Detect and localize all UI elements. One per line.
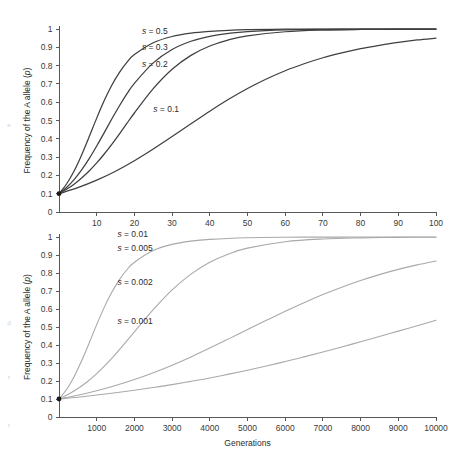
y-tick-label: 0	[48, 412, 53, 422]
y-tick-label: 0.2	[41, 170, 53, 180]
x-tick-label: 5000	[238, 423, 257, 433]
y-tick-label: 0.1	[41, 394, 53, 404]
x-tick-label: 60	[280, 218, 290, 228]
y-tick-label: 1	[48, 24, 53, 34]
plot-area-top: 00.10.20.30.40.50.60.70.80.9110203040506…	[0, 0, 462, 228]
y-tick-label: 0.3	[41, 358, 53, 368]
y-tick-label: 0.4	[41, 134, 53, 144]
y-tick-label: 0.8	[41, 61, 53, 71]
y-tick-label: 0.5	[41, 116, 53, 126]
axis-lines	[59, 234, 436, 417]
y-tick-label: 0	[48, 207, 53, 217]
x-tick-label: 70	[318, 218, 328, 228]
axis-lines	[59, 26, 436, 212]
y-tick-label: 0.6	[41, 97, 53, 107]
curve-s-0-002	[59, 261, 436, 399]
figure-allele-frequency-selection: n d r t 00.10.20.30.40.50.60.70.80.91102…	[0, 0, 462, 458]
plot-area-bottom: 00.10.20.30.40.50.60.70.80.9110002000300…	[0, 228, 462, 458]
y-tick-label: 0.7	[41, 286, 53, 296]
chart-panel-strong-selection: 00.10.20.30.40.50.60.70.80.9110203040506…	[0, 0, 462, 228]
curve-s-0-1	[59, 38, 436, 194]
x-tick-label: 2000	[125, 423, 144, 433]
x-tick-label: 100	[429, 218, 443, 228]
x-tick-label: 80	[356, 218, 366, 228]
series-label-s-0-005: s = 0.005	[117, 243, 152, 253]
y-axis-title: Frequency of the A allele (p)	[22, 67, 32, 173]
y-tick-label: 0.4	[41, 340, 53, 350]
x-tick-label: 9000	[389, 423, 408, 433]
x-tick-label: 10000	[424, 423, 448, 433]
series-label-s-0-3: s = 0.3	[142, 42, 168, 52]
initial-frequency-dot	[57, 191, 62, 196]
x-tick-label: 90	[394, 218, 404, 228]
x-tick-label: 20	[130, 218, 140, 228]
x-tick-label: 7000	[313, 423, 332, 433]
series-label-s-0-5: s = 0.5	[142, 26, 168, 36]
series-label-s-0-01: s = 0.01	[117, 229, 148, 239]
series-label-s-0-2: s = 0.2	[142, 59, 168, 69]
x-tick-label: 10	[92, 218, 102, 228]
x-tick-label: 1000	[87, 423, 106, 433]
y-tick-label: 0.1	[41, 189, 53, 199]
y-tick-label: 0.9	[41, 250, 53, 260]
series-label-s-0-002: s = 0.002	[117, 277, 152, 287]
x-tick-label: 50	[243, 218, 253, 228]
curve-s-0-001	[59, 320, 436, 399]
series-label-s-0-001: s = 0.001	[117, 316, 152, 326]
y-axis-title: Frequency of the A allele (p)	[22, 274, 32, 380]
x-tick-label: 3000	[163, 423, 182, 433]
y-tick-label: 0.5	[41, 322, 53, 332]
x-tick-label: 30	[167, 218, 177, 228]
y-tick-label: 0.9	[41, 42, 53, 52]
x-tick-label: 6000	[276, 423, 295, 433]
series-label-s-0-1: s = 0.1	[153, 104, 179, 114]
y-tick-label: 0.6	[41, 304, 53, 314]
curve-s-0-01	[59, 237, 436, 399]
chart-panel-weak-selection: 00.10.20.30.40.50.60.70.80.9110002000300…	[0, 228, 462, 458]
initial-frequency-dot	[57, 397, 62, 402]
y-tick-label: 0.8	[41, 268, 53, 278]
y-tick-label: 0.2	[41, 376, 53, 386]
curve-s-0-005	[59, 237, 436, 399]
y-tick-label: 0.3	[41, 152, 53, 162]
y-tick-label: 1	[48, 232, 53, 242]
y-tick-label: 0.7	[41, 79, 53, 89]
curve-s-0-3	[59, 29, 436, 194]
x-tick-label: 40	[205, 218, 215, 228]
x-tick-label: 8000	[351, 423, 370, 433]
x-tick-label: 4000	[200, 423, 219, 433]
x-axis-title: Generations	[224, 438, 270, 448]
